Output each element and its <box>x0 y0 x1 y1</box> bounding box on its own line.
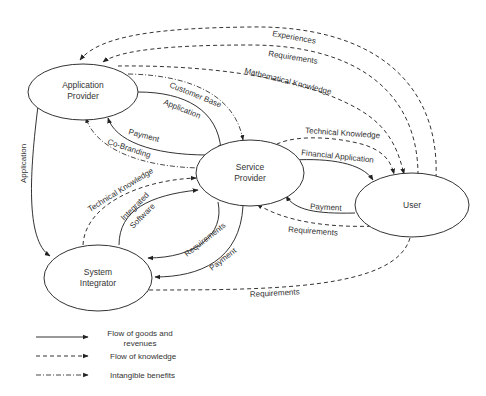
node-application-provider: Application Provider <box>28 64 138 120</box>
label-requirements-sp-si: Requirements <box>183 221 228 259</box>
node-user: User <box>355 173 469 237</box>
svg-text:User: User <box>403 200 421 210</box>
label-experiences: Experiences <box>272 29 317 46</box>
svg-text:Service: Service <box>236 162 265 172</box>
svg-text:Provider: Provider <box>67 91 99 101</box>
label-application-ap-si: Application <box>19 144 28 183</box>
svg-text:Application: Application <box>62 80 104 90</box>
label-application-ap-sp: Application <box>162 98 202 121</box>
value-network-diagram: Application Provider Service Provider Us… <box>0 0 486 396</box>
edge-integrated-software <box>119 190 198 245</box>
label-requirements-user-sp: Requirements <box>288 225 338 237</box>
edge-co-branding <box>86 118 205 168</box>
legend: Flow of goods and revenues Flow of knowl… <box>36 329 177 380</box>
svg-text:Integrator: Integrator <box>80 278 117 288</box>
svg-text:Provider: Provider <box>234 173 266 183</box>
edge-application-ap-si <box>31 106 50 256</box>
legend-goods-label-2: revenues <box>124 339 157 348</box>
node-service-provider: Service Provider <box>196 140 304 206</box>
label-requirements-user-si: Requirements <box>250 287 300 299</box>
node-system-integrator: System Integrator <box>44 245 152 311</box>
label-mathematical-knowledge: Mathematical Knowledge <box>244 66 333 96</box>
label-payment-user-sp: Payment <box>310 202 343 213</box>
legend-intangible-label: Intangible benefits <box>110 371 175 380</box>
edge-requirements-user-si <box>143 238 410 290</box>
label-requirements-user-ap: Requirements <box>268 49 319 66</box>
label-technical-knowledge-sp-user: Technical Knowledge <box>305 126 381 140</box>
legend-goods-label-1: Flow of goods and <box>107 329 172 338</box>
label-payment-sp-si: Payment <box>208 246 239 273</box>
legend-knowledge-label: Flow of knowledge <box>110 352 177 361</box>
svg-text:System: System <box>84 267 112 277</box>
